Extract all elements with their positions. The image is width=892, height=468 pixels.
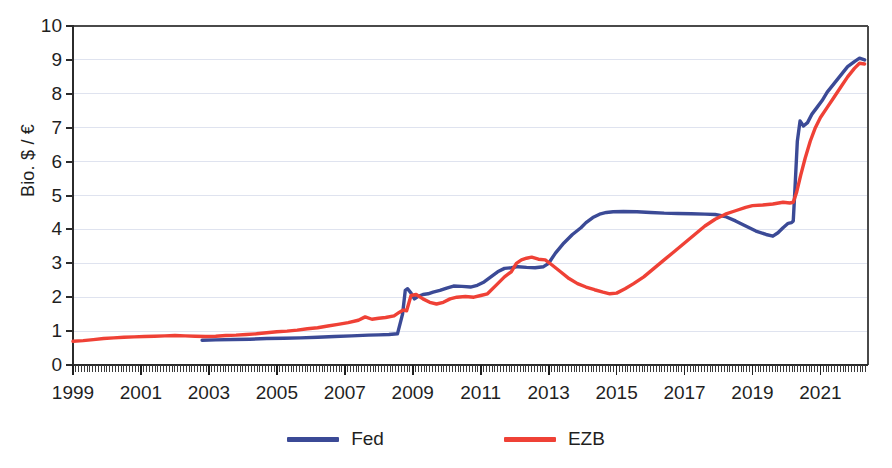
legend-label: EZB (568, 428, 605, 450)
y-tick-label: 7 (32, 118, 62, 137)
y-tick-label: 10 (32, 16, 62, 35)
x-tick-label: 2001 (111, 383, 171, 402)
x-tick-label: 2007 (315, 383, 375, 402)
y-tick-label: 3 (32, 253, 62, 272)
y-tick-label: 5 (32, 186, 62, 205)
y-tick-label: 6 (32, 152, 62, 171)
x-axis-ticks (73, 365, 866, 375)
legend-label: Fed (351, 428, 384, 450)
x-tick-label: 2005 (247, 383, 307, 402)
y-tick-label: 2 (32, 287, 62, 306)
x-tick-label: 2009 (383, 383, 443, 402)
x-tick-label: 1999 (43, 383, 103, 402)
x-tick-label: 2017 (655, 383, 715, 402)
x-tick-label: 2015 (587, 383, 647, 402)
y-tick-label: 1 (32, 321, 62, 340)
legend-swatch-icon (287, 437, 339, 442)
y-tick-label: 0 (32, 355, 62, 374)
x-tick-label: 2013 (519, 383, 579, 402)
chart-legend: FedEZB (0, 428, 892, 450)
central-bank-balance-sheet-chart: Bio. $ / € 012345678910 1999200120032005… (0, 0, 892, 468)
y-tick-label: 4 (32, 219, 62, 238)
series-line-fed (202, 58, 865, 340)
x-tick-label: 2011 (451, 383, 511, 402)
x-tick-label: 2021 (790, 383, 850, 402)
legend-swatch-icon (504, 437, 556, 442)
x-tick-label: 2003 (179, 383, 239, 402)
series-line-ezb (73, 63, 865, 341)
y-tick-label: 8 (32, 84, 62, 103)
legend-item-ezb[interactable]: EZB (504, 428, 605, 450)
legend-item-fed[interactable]: Fed (287, 428, 384, 450)
y-tick-label: 9 (32, 50, 62, 69)
x-tick-label: 2019 (722, 383, 782, 402)
